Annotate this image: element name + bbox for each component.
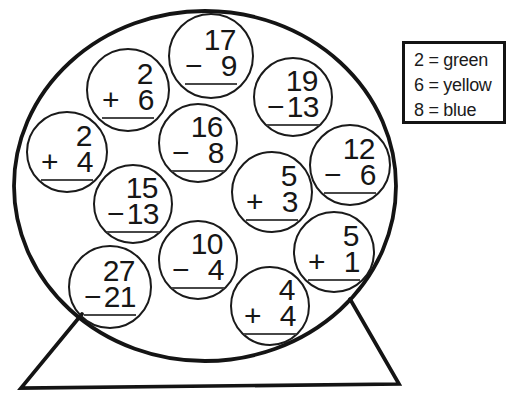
problem-bubble: 19 − 13 bbox=[253, 57, 333, 137]
problem-bubble: 17 − 9 bbox=[168, 13, 254, 99]
operator: − bbox=[185, 53, 202, 79]
answer-line bbox=[102, 117, 154, 119]
key-item-green: 2 = green bbox=[414, 48, 503, 73]
answer-line bbox=[41, 179, 93, 181]
addend: 1 bbox=[344, 249, 360, 275]
math-problem: 10 − 4 bbox=[172, 231, 224, 289]
problem-bubble: 2 + 6 bbox=[86, 48, 170, 132]
operator: − bbox=[172, 257, 189, 283]
answer-line bbox=[185, 83, 237, 85]
operator: − bbox=[172, 140, 189, 166]
subtrahend: 9 bbox=[221, 53, 237, 79]
math-problem: 19 − 13 bbox=[267, 68, 319, 126]
math-problem: 5 + 3 bbox=[246, 163, 298, 221]
answer-line bbox=[246, 219, 298, 221]
answer-line bbox=[308, 279, 360, 281]
problem-bubble: 15 − 13 bbox=[93, 164, 173, 244]
addend: 6 bbox=[138, 87, 154, 113]
color-key-box: 2 = green 6 = yellow 8 = blue bbox=[402, 41, 506, 124]
answer-line bbox=[172, 170, 224, 172]
math-problem: 17 − 9 bbox=[185, 27, 237, 85]
subtrahend: 6 bbox=[360, 162, 376, 188]
math-problem: 27 − 21 bbox=[84, 258, 136, 316]
math-problem: 15 − 13 bbox=[107, 175, 159, 233]
key-item-blue: 8 = blue bbox=[414, 98, 503, 123]
answer-line bbox=[84, 314, 136, 316]
worksheet: 17 − 9 2 + 6 19 − 13 bbox=[0, 0, 521, 402]
subtrahend: 13 bbox=[127, 201, 159, 227]
addend: 4 bbox=[77, 149, 93, 175]
operator: + bbox=[41, 149, 58, 175]
operator: − bbox=[324, 162, 341, 188]
math-problem: 16 − 8 bbox=[172, 114, 224, 172]
addend: 3 bbox=[282, 189, 298, 215]
operator: − bbox=[84, 284, 101, 310]
math-problem: 12 − 6 bbox=[324, 136, 376, 194]
addend: 4 bbox=[280, 303, 296, 329]
problem-bubble: 27 − 21 bbox=[68, 245, 152, 329]
problem-bubble: 5 + 3 bbox=[231, 151, 313, 233]
subtrahend: 4 bbox=[208, 257, 224, 283]
math-problem: 2 + 6 bbox=[102, 61, 154, 119]
problem-bubble: 12 − 6 bbox=[309, 124, 391, 206]
problem-bubble: 16 − 8 bbox=[158, 103, 238, 183]
answer-line bbox=[267, 124, 319, 126]
key-item-yellow: 6 = yellow bbox=[414, 73, 503, 98]
subtrahend: 8 bbox=[208, 140, 224, 166]
problem-bubble: 2 + 4 bbox=[26, 111, 108, 193]
answer-line bbox=[244, 333, 296, 335]
subtrahend: 13 bbox=[287, 94, 319, 120]
math-problem: 5 + 1 bbox=[308, 223, 360, 281]
operator: − bbox=[107, 201, 124, 227]
answer-line bbox=[172, 287, 224, 289]
subtrahend: 21 bbox=[104, 284, 136, 310]
math-problem: 4 + 4 bbox=[244, 277, 296, 335]
operator: − bbox=[267, 94, 284, 120]
operator: + bbox=[102, 87, 119, 113]
operator: + bbox=[246, 189, 263, 215]
math-problem: 2 + 4 bbox=[41, 123, 93, 181]
answer-line bbox=[324, 192, 376, 194]
operator: + bbox=[308, 249, 325, 275]
problem-bubble: 5 + 1 bbox=[293, 211, 375, 293]
problem-bubble: 4 + 4 bbox=[230, 266, 310, 346]
operator: + bbox=[244, 303, 261, 329]
answer-line bbox=[107, 231, 159, 233]
problem-bubble: 10 − 4 bbox=[158, 220, 238, 300]
